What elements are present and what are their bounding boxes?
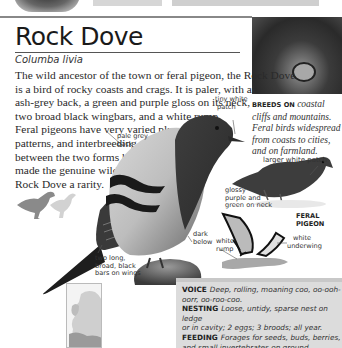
fact-nesting: NESTINGLoose, untidy, sparse nest on led… [182, 304, 342, 333]
annotation-line: patch [215, 104, 248, 112]
annotation-white-rump: white rump [216, 238, 234, 253]
annotation-pale-grey-back: pale grey back [117, 133, 148, 148]
annotation-line: below [193, 239, 213, 247]
annotation-dark-below: dark below [193, 231, 213, 246]
fact-text: or in cavity; 2 eggs; 3 broods; all year… [182, 323, 322, 332]
annotation-line: bars on wings [95, 270, 141, 278]
annotation-line: rump [216, 246, 234, 254]
fact-text: Deep, rolling, moaning coo, oo-ooh- [210, 285, 341, 294]
fact-text: and small invertebrates on ground. [182, 343, 311, 348]
annotation-wing-bars: two long, broad, black bars on wings [95, 255, 141, 278]
annotation-white-underwing: white underwing [287, 235, 322, 250]
habitat-line: and on farmland. [252, 146, 318, 156]
habitat-line: cliffs and mountains. [252, 112, 331, 122]
habitat-line: from coasts to cities, [252, 135, 330, 145]
habitat-heading: BREEDS ON [252, 101, 295, 109]
fact-voice: VOICEDeep, rolling, moaning coo, oo-ooh-… [182, 285, 342, 304]
annotation-glossy-neck: glossy purple and green on neck [225, 187, 272, 210]
habitat-line: Feral birds widespread [252, 123, 341, 133]
range-map [66, 283, 102, 348]
annotation-tiny-white-patch: tiny white patch [215, 96, 248, 111]
fact-heading: NESTING [182, 304, 218, 313]
fact-heading: VOICE [182, 285, 207, 294]
fact-text: Forages for seeds, buds, berries, [221, 333, 341, 342]
size-silhouettes [17, 192, 76, 219]
annotation-larger-white-patch: larger white patch [263, 157, 327, 165]
fact-text: oorr, oo-roo-coo. [182, 295, 242, 304]
fact-feeding: FEEDINGForages for seeds, buds, berries,… [182, 333, 342, 348]
species-facts-panel: VOICEDeep, rolling, moaning coo, oo-ooh-… [176, 282, 342, 348]
habitat-text: BREEDS ON coastal cliffs and mountains. … [252, 99, 342, 158]
annotation-line: green on neck [225, 202, 272, 210]
habitat-line: coastal [297, 99, 324, 109]
annotation-line: underwing [287, 243, 322, 251]
fact-heading: FEEDING [182, 333, 218, 342]
annotation-line: back [117, 141, 148, 149]
feral-pigeon-label: FERAL PIGEON [296, 212, 342, 228]
europe-map-icon [67, 284, 102, 348]
